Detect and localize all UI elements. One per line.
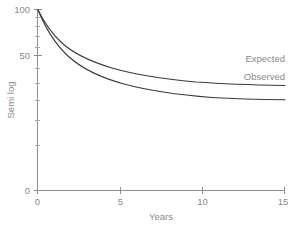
x-tick-label-0: 0 (35, 196, 40, 207)
y-tick-label-0: 0 (25, 185, 30, 196)
series-label-observed: Observed (244, 71, 285, 82)
chart-figure: 100 50 0 0 5 10 15 Years Semi log Expect… (0, 0, 291, 227)
semi-log-plot: 100 50 0 0 5 10 15 Years Semi log Expect… (0, 0, 291, 227)
series-label-expected: Expected (245, 53, 285, 64)
x-tick-label-5: 5 (118, 196, 123, 207)
y-tick-label-100: 100 (14, 4, 30, 15)
x-tick-label-10: 10 (197, 196, 208, 207)
x-tick-label-15: 15 (278, 196, 289, 207)
y-axis-title: Semi log (5, 82, 16, 119)
x-axis-title: Years (149, 211, 173, 222)
y-tick-label-50: 50 (19, 50, 30, 61)
